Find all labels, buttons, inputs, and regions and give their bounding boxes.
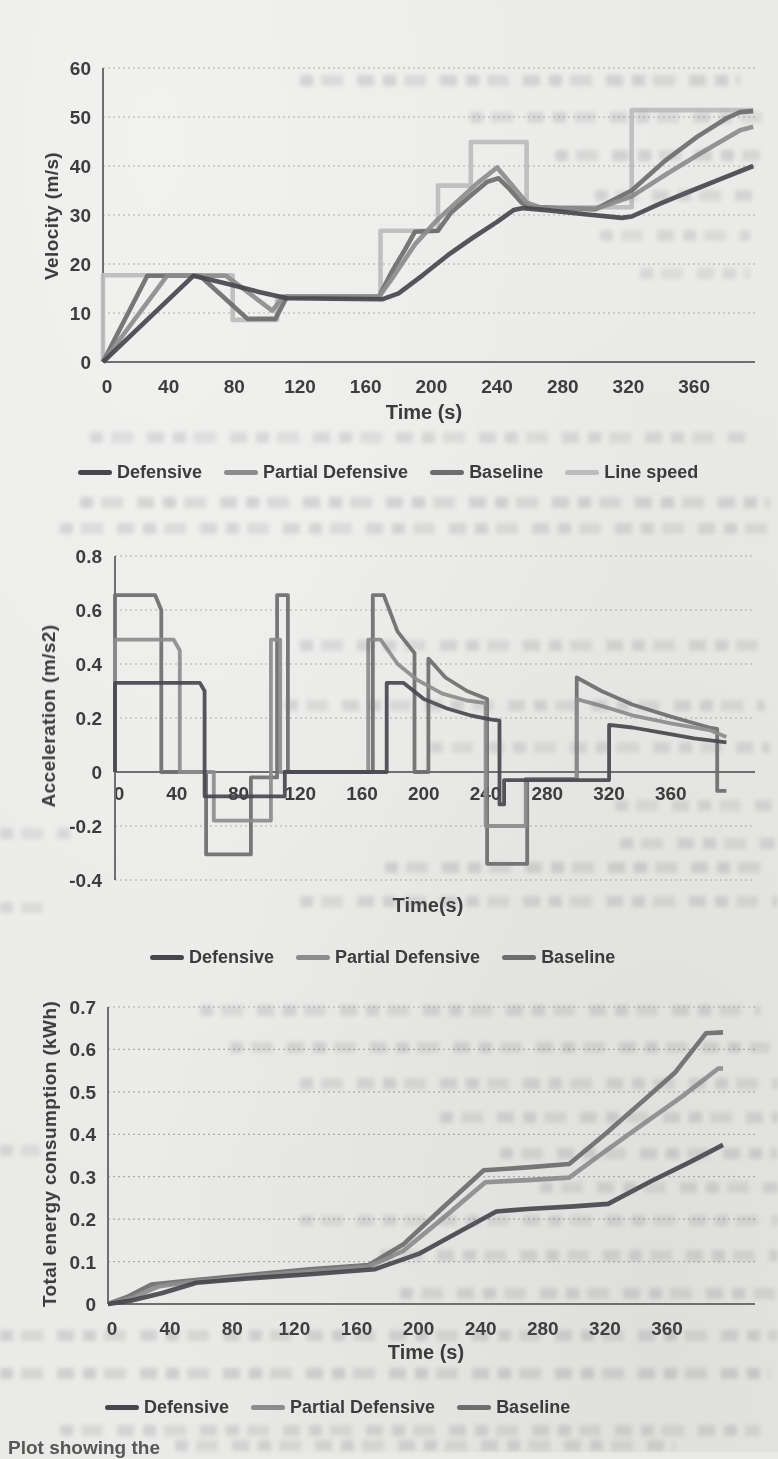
legend-label: Baseline: [496, 1397, 570, 1418]
ghost-text-line: [440, 1112, 778, 1123]
svg-text:80: 80: [224, 376, 245, 397]
ghost-text-line: [200, 1005, 760, 1016]
svg-text:0.8: 0.8: [76, 546, 102, 567]
ghost-text-line: [300, 1215, 778, 1226]
legend-item-defensive: Defensive: [150, 947, 274, 968]
svg-text:40: 40: [158, 376, 179, 397]
svg-text:80: 80: [228, 783, 249, 804]
legend-label: Defensive: [117, 462, 202, 483]
ghost-text-line: [60, 1425, 760, 1436]
svg-text:0: 0: [91, 762, 102, 783]
svg-text:20: 20: [70, 254, 91, 275]
svg-text:280: 280: [547, 376, 579, 397]
legend-item-partial-defensive: Partial Defensive: [224, 462, 408, 483]
legend-label: Line speed: [604, 462, 698, 483]
legend-item-partial-defensive: Partial Defensive: [251, 1397, 435, 1418]
legend-label: Defensive: [189, 947, 274, 968]
ghost-text-line: [385, 862, 770, 873]
legend-item-defensive: Defensive: [78, 462, 202, 483]
legend-label: Defensive: [144, 1397, 229, 1418]
svg-text:0.3: 0.3: [70, 1167, 96, 1188]
ghost-text-line: [0, 902, 55, 913]
ghost-text-line: [640, 268, 750, 279]
ghost-text-line: [595, 190, 760, 201]
legend-item-defensive: Defensive: [105, 1397, 229, 1418]
svg-text:160: 160: [350, 376, 382, 397]
ghost-text-line: [285, 700, 765, 711]
legend-label: Partial Defensive: [335, 947, 480, 968]
ghost-text-line: [175, 1440, 675, 1451]
legend-label: Baseline: [469, 462, 543, 483]
legend-swatch: [502, 955, 536, 960]
legend-label: Baseline: [541, 947, 615, 968]
svg-text:40: 40: [70, 156, 91, 177]
ghost-text-line: [600, 230, 750, 241]
svg-text:0.5: 0.5: [70, 1082, 97, 1103]
svg-text:0.2: 0.2: [70, 1209, 96, 1230]
legend-swatch: [224, 470, 258, 475]
svg-text:0.6: 0.6: [70, 1039, 96, 1060]
ghost-text-line: [0, 1330, 778, 1341]
svg-text:0.4: 0.4: [70, 1124, 97, 1145]
ghost-text-line: [540, 1182, 778, 1193]
svg-text:0.6: 0.6: [76, 600, 102, 621]
svg-text:30: 30: [70, 205, 91, 226]
acceleration-y-axis-title: Acceleration (m/s2): [38, 625, 60, 808]
ghost-text-line: [300, 75, 740, 86]
ghost-text-line: [300, 640, 770, 651]
svg-text:10: 10: [70, 303, 91, 324]
ghost-text-line: [300, 896, 778, 907]
energy-y-axis-title: Total energy consumption (kWh): [39, 1001, 61, 1307]
legend-swatch: [105, 1405, 139, 1410]
ghost-text-line: [230, 1042, 770, 1053]
svg-text:0: 0: [80, 352, 91, 373]
velocity-chart-legend: DefensivePartial DefensiveBaselineLine s…: [78, 462, 720, 483]
svg-text:0.1: 0.1: [70, 1252, 97, 1273]
ghost-text-line: [615, 800, 775, 811]
ghost-text-line: [500, 1148, 778, 1159]
svg-text:0: 0: [102, 376, 113, 397]
svg-text:-0.4: -0.4: [69, 870, 102, 891]
legend-label: Partial Defensive: [290, 1397, 435, 1418]
legend-item-partial-defensive: Partial Defensive: [296, 947, 480, 968]
svg-text:320: 320: [613, 376, 645, 397]
legend-swatch: [78, 470, 112, 475]
ghost-text-line: [80, 497, 770, 508]
ghost-text-line: [470, 112, 770, 123]
legend-swatch: [430, 470, 464, 475]
svg-text:200: 200: [416, 376, 448, 397]
ghost-text-line: [620, 838, 775, 849]
svg-text:0.4: 0.4: [76, 654, 103, 675]
legend-item-baseline: Baseline: [430, 462, 543, 483]
legend-swatch: [296, 955, 330, 960]
legend-swatch: [565, 470, 599, 475]
svg-text:60: 60: [70, 58, 91, 79]
figure-caption-fragment: Plot showing the: [8, 1437, 160, 1459]
ghost-text-line: [430, 742, 770, 753]
svg-text:50: 50: [70, 107, 91, 128]
energy-chart-legend: DefensivePartial DefensiveBaseline: [105, 1397, 592, 1418]
ghost-text-line: [0, 1368, 770, 1379]
svg-text:160: 160: [346, 783, 378, 804]
legend-item-baseline: Baseline: [502, 947, 615, 968]
legend-swatch: [457, 1405, 491, 1410]
svg-text:0: 0: [85, 1294, 96, 1315]
svg-text:0.7: 0.7: [70, 997, 96, 1018]
ghost-text-line: [400, 1288, 778, 1299]
svg-text:200: 200: [408, 783, 440, 804]
ghost-text-line: [90, 432, 750, 443]
acceleration-chart-legend: DefensivePartial DefensiveBaseline: [150, 947, 637, 968]
svg-text:240: 240: [481, 376, 513, 397]
legend-swatch: [251, 1405, 285, 1410]
energy-x-axis-title: Time (s): [388, 1341, 464, 1364]
velocity-x-axis-title: Time (s): [386, 401, 462, 424]
ghost-text-line: [60, 523, 770, 534]
velocity-y-axis-title: Velocity (m/s): [41, 152, 63, 280]
legend-label: Partial Defensive: [263, 462, 408, 483]
ghost-text-line: [0, 828, 70, 839]
svg-text:280: 280: [531, 783, 563, 804]
legend-item-line-speed: Line speed: [565, 462, 698, 483]
legend-swatch: [150, 955, 184, 960]
